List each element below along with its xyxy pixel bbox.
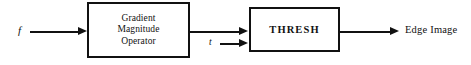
arrow-shaft — [30, 31, 79, 33]
input-label-t: t — [209, 38, 212, 48]
block-label-line-1: Gradient — [121, 13, 155, 25]
arrow-head-icon — [78, 27, 87, 35]
block-label-line-2: Magnitude — [117, 24, 159, 36]
input-label-f: f — [18, 25, 21, 36]
arrow-shaft — [190, 31, 240, 33]
arrow-head-icon — [390, 27, 399, 35]
block-diagram: f Gradient Magnitude Operator t THRESH E… — [0, 0, 471, 65]
block-label-line-3: Operator — [121, 36, 156, 48]
block-thresh: THRESH — [249, 7, 340, 52]
arrow-head-icon — [239, 27, 248, 35]
arrow-shaft — [220, 43, 240, 45]
output-label-edge-image: Edge Image — [405, 25, 457, 36]
block-gradient-magnitude-operator: Gradient Magnitude Operator — [87, 2, 190, 58]
arrow-head-icon — [239, 39, 248, 47]
arrow-shaft — [340, 31, 391, 33]
block-label-thresh: THRESH — [269, 24, 319, 36]
